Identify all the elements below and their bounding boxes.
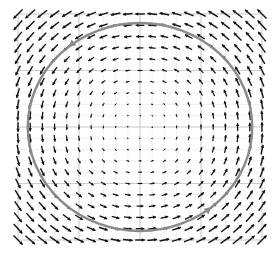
- vector-field-plot: [0, 0, 278, 253]
